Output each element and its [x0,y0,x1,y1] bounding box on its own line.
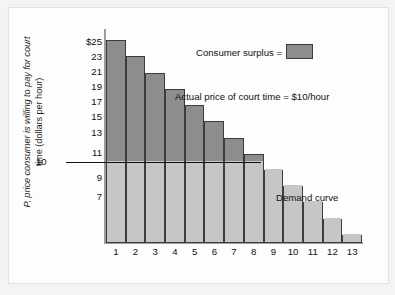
x-tick-12: 12 [323,246,343,257]
bar-segment-consumer-surplus [225,139,243,163]
bar-hour-3 [145,73,165,243]
x-tick-3: 3 [145,246,165,257]
x-tick-13: 13 [342,246,362,257]
plot-area: P, price consumer is willing to pay for … [0,0,395,295]
annotation-demand-curve: Demand curve [276,192,338,203]
bar-segment-consumer-surplus [186,106,204,163]
x-tick-6: 6 [204,246,224,257]
bar-segment-below-price [127,161,145,242]
y-tick-11: 11 [44,147,102,158]
bar-segment-below-price [107,161,125,242]
legend: Consumer surplus = [196,44,313,59]
bar-segment-below-price [166,161,184,242]
x-tick-5: 5 [185,246,205,257]
y-tick-15: 15 [44,111,102,122]
bar-hour-6 [204,121,224,243]
bar-hour-2 [126,56,146,243]
price-line-label: 10 [36,156,47,167]
y-tick-19: 19 [44,81,102,92]
bar-hour-4 [165,89,185,243]
bar-hour-11 [303,202,323,243]
x-tick-2: 2 [126,246,146,257]
y-tick-25: $25 [44,36,102,47]
y-tick-23: 23 [44,51,102,62]
bar-segment-below-price [225,161,243,242]
x-tick-9: 9 [264,246,284,257]
y-tick-17: 17 [44,96,102,107]
bar-segment-consumer-surplus [146,74,164,163]
annotation-actual-price: Actual price of court time = $10/hour [175,91,329,102]
bar-hour-12 [323,219,343,243]
bar-segment-below-price [265,169,283,242]
x-tick-1: 1 [106,246,126,257]
bar-hour-8 [244,154,264,243]
bar-segment-below-price [245,161,263,242]
bar-segment-consumer-surplus [205,122,223,163]
legend-label: Consumer surplus = [196,47,282,58]
bar-hour-7 [224,138,244,244]
x-tick-10: 10 [283,246,303,257]
bar-segment-consumer-surplus [127,57,145,163]
y-tick-13: 13 [44,127,102,138]
bar-hour-13 [342,235,362,243]
bar-segment-below-price [186,161,204,242]
x-tick-4: 4 [165,246,185,257]
bar-segment-below-price [343,234,361,242]
price-reference-line [66,162,261,164]
x-tick-group: 12345678910111213 [106,246,362,262]
bar-hour-9 [264,170,284,243]
bar-segment-below-price [324,218,342,242]
bar-segment-below-price [304,201,322,242]
x-tick-11: 11 [303,246,323,257]
y-tick-7: 7 [44,191,102,202]
bar-segment-consumer-surplus [107,41,125,163]
bar-group [106,29,362,243]
y-tick-21: 21 [44,66,102,77]
y-tick-group: $25 23 21 19 17 15 13 11 9 7 [40,0,102,260]
x-tick-7: 7 [224,246,244,257]
bar-segment-below-price [146,161,164,242]
y-tick-9: 9 [44,172,102,183]
bar-hour-5 [185,105,205,243]
legend-swatch-consumer-surplus [286,44,313,59]
bar-hour-1 [106,40,126,243]
figure-canvas: P, price consumer is willing to pay for … [0,0,395,295]
y-axis-label-line1: P, price consumer is willing to pay for … [22,37,32,208]
x-tick-8: 8 [244,246,264,257]
bar-segment-below-price [205,161,223,242]
